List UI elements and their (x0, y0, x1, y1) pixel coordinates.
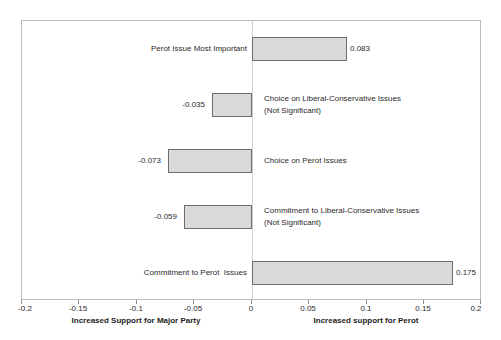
bar[interactable] (168, 149, 252, 173)
axis-tick-label: -0.2 (18, 305, 32, 313)
axis-tick-label: 0.15 (415, 305, 431, 313)
axis-tick-label: 0.2 (470, 305, 481, 313)
bar-category-label: Perot Issue Most Important (47, 43, 247, 55)
bar[interactable] (212, 93, 252, 117)
x-axis-title-right: Increased support for Perot (314, 317, 419, 325)
x-axis-title-left: Increased Support for Major Party (72, 317, 201, 325)
bar-value-label: -0.035 (145, 101, 205, 109)
axis-tick-label: 0.05 (300, 305, 316, 313)
bar-value-label: 0.083 (350, 45, 370, 53)
bar-category-label: Commitment to Liberal-Conservative Issue… (264, 205, 494, 228)
bar[interactable] (184, 205, 252, 229)
plot-area: 0.083 Perot Issue Most Important -0.035 … (21, 20, 481, 300)
axis-tick-label: 0 (249, 305, 253, 313)
bar-value-label: -0.059 (117, 213, 177, 221)
bar-row: -0.059 Commitment to Liberal-Conservativ… (22, 189, 480, 245)
axis-tick-label: -0.15 (69, 305, 87, 313)
bar-category-label: Choice on Perot Issues (264, 155, 479, 167)
bar[interactable] (252, 37, 347, 61)
bar[interactable] (252, 261, 453, 285)
bar-row: 0.083 Perot Issue Most Important (22, 21, 480, 77)
bar-chart-figure: 0.083 Perot Issue Most Important -0.035 … (0, 0, 501, 340)
bar-category-label: Choice on Liberal-Conservative Issues (N… (264, 93, 479, 116)
bar-value-label: -0.073 (101, 157, 161, 165)
bar-row: -0.035 Choice on Liberal-Conservative Is… (22, 77, 480, 133)
bar-category-label: Commitment to Perot Issues (47, 267, 247, 279)
axis-tick-label: -0.1 (129, 305, 143, 313)
bar-value-label: 0.175 (456, 269, 476, 277)
axis-tick-label: -0.05 (184, 305, 202, 313)
x-axis: -0.2 -0.15 -0.1 -0.05 0 0.05 0.1 0.15 0.… (21, 300, 481, 340)
axis-tick-label: 0.1 (360, 305, 371, 313)
bar-row: -0.073 Choice on Perot Issues (22, 133, 480, 189)
bar-row: 0.175 Commitment to Perot Issues (22, 245, 480, 301)
